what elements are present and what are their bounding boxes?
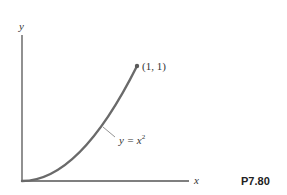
endpoint-label: (1, 1)	[142, 61, 166, 72]
equation-label: y = x2	[119, 134, 145, 146]
x-axis-label: x	[194, 175, 199, 186]
endpoint-dot	[135, 64, 139, 68]
label-leader-line	[103, 127, 115, 137]
parabola-curve	[22, 66, 137, 181]
figure-number: P7.80	[241, 176, 270, 187]
equation-exponent: 2	[142, 133, 146, 141]
equation-label-text: y = x	[119, 134, 142, 146]
y-axis-label: y	[19, 21, 24, 32]
diagram-canvas	[0, 0, 287, 195]
